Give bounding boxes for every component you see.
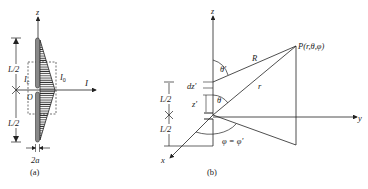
half-length-bottom-b: L/2 xyxy=(159,124,172,134)
z-axis-a-label: z xyxy=(35,8,40,17)
diameter-label: 2a xyxy=(31,155,40,165)
half-length-top-b: L/2 xyxy=(159,94,172,104)
R-label: R xyxy=(251,53,258,63)
dz-prime-label: dz' xyxy=(187,81,197,91)
half-length-top-a: L/2 xyxy=(7,64,20,74)
theta-prime-label: θ' xyxy=(220,64,226,74)
dim-arrow-bottom xyxy=(13,136,19,142)
phi-label: φ = φ' xyxy=(222,136,243,146)
x-axis-label: x xyxy=(160,155,165,165)
dim-arrow-top xyxy=(13,38,19,44)
feed-current-label: Ic xyxy=(23,74,30,85)
peak-current-label: I0 xyxy=(59,72,66,83)
panel-a: z I L/2 L/2 Ic I0 O 2a (a) xyxy=(7,8,96,177)
current-axis-label: I xyxy=(84,78,89,88)
dipole-lower-arm xyxy=(36,92,40,142)
dipole-upper-arm xyxy=(36,38,40,88)
origin-label-a: O xyxy=(27,93,33,102)
half-length-bottom-a: L/2 xyxy=(7,118,20,128)
x-axis xyxy=(170,115,213,158)
caption-a: (a) xyxy=(30,167,40,177)
dipole-figure: z I L/2 L/2 Ic I0 O 2a (a) xyxy=(0,0,368,189)
point-P-label: P(r,θ,φ) xyxy=(297,41,325,51)
caption-b: (b) xyxy=(207,167,217,177)
z-axis-b-label: z xyxy=(210,7,215,16)
panel-b: z y x P(r,θ,φ) R r θ' θ φ = φ' dz' z' xyxy=(159,7,362,177)
theta-label: θ xyxy=(217,95,221,105)
r-label: r xyxy=(258,81,262,91)
y-axis-label: y xyxy=(357,113,362,123)
z-prime-label: z' xyxy=(191,99,197,109)
